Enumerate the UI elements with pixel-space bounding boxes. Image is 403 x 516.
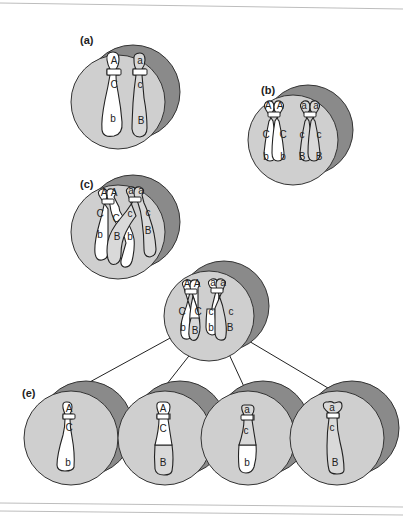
centromere [63, 414, 75, 419]
allele-b: b [97, 229, 103, 240]
allele-A: A [101, 187, 108, 198]
allele-a: a [138, 185, 144, 196]
allele-b: b [127, 231, 133, 242]
allele-C: C [194, 306, 201, 317]
allele-c: c [330, 422, 335, 433]
allele-B: B [192, 325, 199, 336]
allele-c: c [128, 208, 133, 219]
allele-B: B [138, 115, 145, 126]
allele-C: C [110, 79, 117, 90]
centromere [268, 112, 280, 117]
allele-c: c [138, 79, 143, 90]
allele-C: C [65, 422, 72, 433]
allele-b: b [110, 113, 116, 124]
panel-label-c: (c) [80, 178, 94, 190]
allele-C: C [112, 213, 119, 224]
centromere [304, 112, 316, 117]
panel-label-b: (b) [261, 84, 275, 96]
allele-B: B [114, 231, 121, 242]
chromosome-pair-A: A A C C b b [262, 100, 286, 162]
centromere [133, 69, 147, 75]
allele-C: C [159, 423, 166, 434]
allele-b: b [208, 322, 214, 333]
allele-a: a [210, 277, 216, 288]
panel-label-e: (e) [22, 387, 36, 399]
allele-c: c [300, 129, 305, 140]
allele-B: B [160, 457, 167, 468]
centromere [107, 69, 121, 75]
allele-C: C [178, 306, 185, 317]
panel-d: (d) A A a a C C c c b B b B [77, 261, 333, 391]
allele-C: C [279, 129, 286, 140]
meiosis-diagram: (a) A C b a c B (b) A A [0, 0, 403, 516]
bottom-rule-1 [0, 503, 403, 507]
allele-b: b [263, 151, 269, 162]
allele-B: B [316, 151, 323, 162]
allele-A: A [111, 187, 118, 198]
allele-a: a [244, 404, 250, 415]
allele-a: a [313, 100, 319, 111]
panel-label-a: (a) [80, 34, 94, 46]
centromere [102, 199, 114, 204]
allele-A: A [111, 55, 118, 66]
panel-b: (b) A A C C b b a a c c B B [248, 84, 353, 185]
centromere [185, 289, 197, 294]
top-rule [0, 3, 403, 9]
allele-c: c [317, 129, 322, 140]
allele-b: b [65, 457, 71, 468]
allele-C: C [96, 208, 103, 219]
allele-c: c [244, 425, 249, 436]
allele-a: a [128, 185, 134, 196]
panel-c: (c) A A a a C C c c b B b B [71, 175, 180, 279]
allele-B: B [145, 225, 152, 236]
allele-a: a [329, 402, 335, 413]
allele-c: c [146, 207, 151, 218]
centromere [327, 413, 339, 418]
allele-c: c [229, 306, 234, 317]
allele-b: b [180, 322, 186, 333]
gamete-ACb: A C b [24, 381, 133, 485]
panel-e: (e) A C b A C B a [22, 381, 399, 485]
centromere [211, 288, 223, 293]
allele-a: a [137, 55, 143, 66]
cell-front [248, 95, 338, 185]
bottom-rule-2 [0, 511, 403, 515]
allele-c: c [209, 306, 214, 317]
allele-b: b [280, 151, 286, 162]
allele-b: b [244, 457, 250, 468]
allele-A: A [194, 278, 201, 289]
centromere [129, 197, 141, 202]
allele-A: A [265, 100, 272, 111]
allele-B: B [299, 151, 306, 162]
allele-a: a [220, 277, 226, 288]
allele-A: A [184, 278, 191, 289]
centromere [157, 414, 169, 419]
allele-a: a [301, 100, 307, 111]
allele-C: C [262, 129, 269, 140]
gamete-acB: a c B [290, 381, 399, 485]
centromere [241, 415, 253, 420]
allele-A: A [160, 403, 167, 414]
allele-A: A [277, 100, 284, 111]
allele-A: A [66, 403, 73, 414]
allele-B: B [332, 457, 339, 468]
chromosome-pair-a: a a c c B B [299, 100, 323, 162]
panel-a: (a) A C b a c B [71, 34, 180, 149]
allele-B: B [227, 322, 234, 333]
